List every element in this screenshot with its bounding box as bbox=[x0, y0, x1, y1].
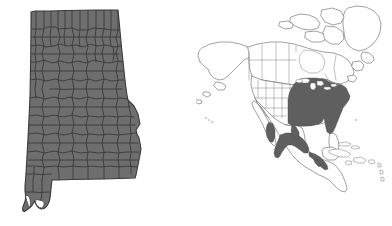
alabama-county-map-svg bbox=[0, 0, 196, 226]
nova-scotia-outline bbox=[348, 75, 357, 82]
alaska-peninsula-outline bbox=[214, 82, 226, 90]
ellesmere-island-outline bbox=[321, 8, 344, 25]
lesser-antilles-north-outline bbox=[378, 163, 381, 167]
newfoundland-outline bbox=[352, 61, 364, 71]
aleutian-islands-west-outline bbox=[196, 100, 202, 104]
alabama-county-map-panel: Alabama bbox=[0, 0, 196, 226]
jamaica-outline bbox=[345, 161, 352, 165]
lesser-antilles-south-outline bbox=[381, 177, 384, 181]
range-shading-mexico bbox=[266, 122, 328, 170]
bermuda-outline bbox=[355, 119, 357, 121]
hispaniola-outline bbox=[353, 157, 366, 163]
alaska-outline bbox=[198, 42, 252, 80]
hawaiian-islands-outline bbox=[205, 117, 213, 123]
bahamas-east-outline bbox=[351, 146, 360, 149]
victoria-island-outline bbox=[290, 14, 320, 30]
lesser-antilles-mid-outline bbox=[380, 170, 383, 174]
north-america-range-map-panel: North America bbox=[196, 0, 392, 226]
greenland-south-outline bbox=[361, 52, 374, 63]
puerto-rico-outline bbox=[368, 160, 375, 164]
alabama-state-fill bbox=[23, 10, 142, 212]
north-america-range-map-svg bbox=[196, 0, 392, 226]
distribution-map-figure: Species distribution map Alabama bbox=[0, 0, 392, 226]
greenland-outline bbox=[343, 6, 381, 51]
alabama-counties-fill bbox=[23, 10, 142, 212]
baffin-island-outline bbox=[323, 26, 344, 44]
aleutian-islands-outline bbox=[203, 92, 211, 97]
eastern-us-range bbox=[288, 78, 350, 134]
bahamas-outline bbox=[338, 142, 351, 146]
range-shading-eastern-us bbox=[288, 78, 350, 134]
baffin-island-north-outline bbox=[305, 31, 326, 42]
